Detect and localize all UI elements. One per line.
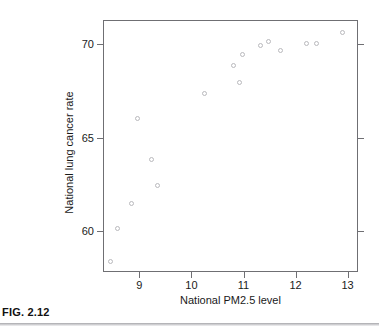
y-tick-label: 65 — [62, 132, 94, 144]
x-tick-label: 10 — [176, 279, 206, 291]
y-tick — [97, 138, 103, 139]
x-tick-label: 13 — [333, 279, 363, 291]
data-point — [314, 41, 319, 46]
x-tick-label: 9 — [124, 279, 154, 291]
y-tick-right — [358, 44, 364, 45]
scatter-plot-area — [103, 20, 358, 272]
data-point — [115, 226, 120, 231]
data-point — [266, 39, 271, 44]
x-tick — [139, 272, 140, 278]
data-point — [240, 52, 245, 57]
y-axis-label: National lung cancer rate — [63, 28, 76, 278]
data-point — [129, 201, 134, 206]
data-point — [278, 48, 283, 53]
data-point — [231, 63, 236, 68]
y-tick — [97, 44, 103, 45]
data-point — [155, 183, 160, 188]
figure-caption: FIG. 2.12 — [0, 306, 379, 319]
caption-divider — [0, 323, 379, 326]
y-tick-right — [358, 138, 364, 139]
data-point — [135, 116, 140, 121]
x-tick — [348, 272, 349, 278]
y-tick — [97, 231, 103, 232]
y-tick-label: 70 — [62, 38, 94, 50]
y-tick-right — [358, 231, 364, 232]
x-tick — [296, 272, 297, 278]
x-tick — [244, 272, 245, 278]
data-point — [340, 30, 345, 35]
x-tick-label: 12 — [281, 279, 311, 291]
data-point — [304, 41, 309, 46]
figure-caption-block: FIG. 2.12 — [0, 306, 379, 319]
y-tick-label: 60 — [62, 225, 94, 237]
x-tick — [191, 272, 192, 278]
figure-container: National PM2.5 level National lung cance… — [0, 0, 379, 335]
data-point — [202, 91, 207, 96]
data-point — [149, 157, 154, 162]
data-point — [237, 80, 242, 85]
data-point — [258, 43, 263, 48]
data-point — [108, 259, 113, 264]
x-tick-label: 11 — [229, 279, 259, 291]
